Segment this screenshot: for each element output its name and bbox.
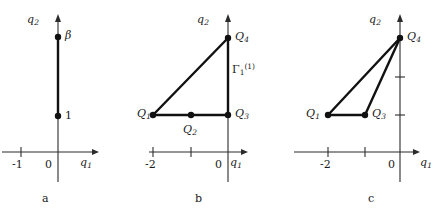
figure-three-panel-diagram: q2 q1 -1 0 β 1 a q2 q1 — [0, 0, 441, 214]
panel-a-canvas — [0, 0, 147, 214]
y-axis-arrow — [55, 14, 61, 22]
beta-point-dot — [55, 34, 61, 40]
x-axis-label-sub: 1 — [427, 161, 432, 170]
panel-letter-a: a — [42, 192, 49, 205]
Q2-label: Q2 — [183, 124, 197, 136]
y-axis-arrow — [225, 14, 231, 22]
y-axis-label: q2 — [197, 14, 209, 26]
Q3-label-sub: 3 — [244, 112, 249, 121]
Q2-label-text: Q — [183, 123, 192, 136]
Q1-label-text: Q — [306, 107, 315, 120]
y-axis-label: q2 — [27, 14, 39, 26]
Q4-label: Q4 — [407, 31, 421, 43]
x-tick-label-zero: 0 — [45, 158, 52, 171]
Q2-dot — [188, 112, 194, 118]
panel-letter-b: b — [195, 192, 202, 205]
Q4-label-sub: 4 — [244, 35, 249, 44]
edge-Q3-Q4 — [365, 38, 400, 115]
Q4-label-text: Q — [407, 30, 416, 43]
panel-c: q2 q1 -2 0 Q1 Q3 Q4 c — [294, 0, 441, 214]
gamma-symbol: Γ — [232, 63, 240, 76]
Q4-label: Q4 — [235, 31, 249, 43]
Q4-label-text: Q — [235, 30, 244, 43]
x-tick-label-minus2: -2 — [145, 158, 156, 171]
Q1-label: Q1 — [306, 108, 320, 120]
y-axis-label: q2 — [369, 14, 381, 26]
x-axis-arrow — [413, 149, 420, 155]
edge-Q1-Q4 — [328, 38, 400, 115]
x-axis-arrow — [92, 149, 99, 155]
x-axis-label: q1 — [80, 157, 92, 169]
Q3-label-text: Q — [235, 107, 244, 120]
Q4-label-sub: 4 — [416, 35, 421, 44]
panel-letter-c: c — [368, 192, 374, 205]
Q1-label-sub: 1 — [315, 112, 320, 121]
panel-b: q2 q1 -2 0 Q1 Q2 Q3 Q4 Γ1(1) b — [147, 0, 294, 214]
panel-b-canvas — [147, 0, 294, 214]
y-axis-arrow — [397, 14, 403, 22]
Q1-label: Q1 — [137, 108, 151, 120]
one-point-dot — [55, 113, 61, 119]
Q1-label-text: Q — [137, 107, 146, 120]
x-tick-label-zero: 0 — [215, 158, 222, 171]
x-tick-label-minus1: -1 — [12, 158, 23, 171]
Q3-label: Q3 — [372, 108, 386, 120]
Q1-dot — [325, 112, 331, 118]
x-tick-label-zero: 0 — [388, 158, 395, 171]
Q2-label-sub: 2 — [192, 128, 197, 137]
panel-a: q2 q1 -1 0 β 1 a — [0, 0, 147, 214]
gamma-edge-label: Γ1(1) — [232, 62, 255, 77]
Q3-label: Q3 — [235, 108, 249, 120]
Q4-dot — [397, 35, 403, 41]
one-point-label: 1 — [65, 109, 72, 122]
y-axis-label-sub: 2 — [204, 18, 209, 27]
x-axis-arrow — [241, 149, 248, 155]
x-axis-label: q1 — [420, 157, 432, 169]
x-axis-label: q1 — [230, 157, 242, 169]
Q3-dot — [225, 112, 231, 118]
edge-Q1-Q4 — [153, 38, 228, 115]
Q4-dot — [225, 35, 231, 41]
x-axis-label-sub: 1 — [87, 161, 92, 170]
x-axis-label-sub: 1 — [237, 161, 242, 170]
gamma-sup: (1) — [244, 62, 255, 71]
Q3-label-sub: 3 — [381, 112, 386, 121]
y-axis-label-sub: 2 — [34, 18, 39, 27]
beta-point-label: β — [65, 30, 71, 41]
Q3-label-text: Q — [372, 107, 381, 120]
Q3-dot — [362, 112, 368, 118]
y-axis-label-sub: 2 — [376, 18, 381, 27]
Q1-label-sub: 1 — [146, 112, 151, 121]
x-tick-label-minus2: -2 — [320, 158, 331, 171]
